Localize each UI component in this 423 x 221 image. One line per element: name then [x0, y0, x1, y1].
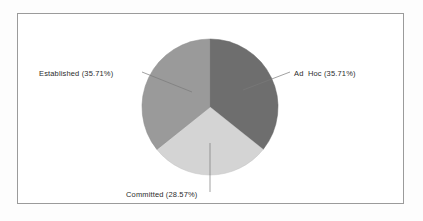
chart-canvas: Established (35.71%) Ad Hoc (35.71%) Com…	[0, 0, 423, 221]
pie-chart-plot	[0, 0, 423, 221]
pie-label-ad-hoc: Ad Hoc (35.71%)	[294, 69, 356, 78]
pie-label-established: Established (35.71%)	[39, 69, 113, 78]
pie-label-committed: Committed (28.57%)	[126, 190, 197, 199]
